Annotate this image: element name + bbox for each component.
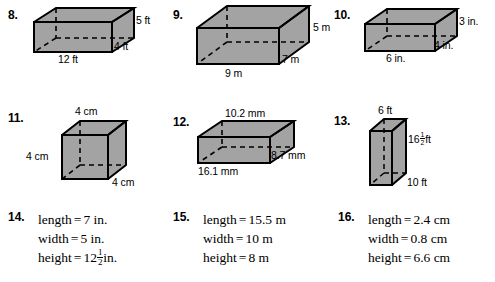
label-depth-12: 8.7 mm [271,150,305,161]
problem-14-lines: length=7 in. width=5 in. height=1212in. [38,210,168,267]
label-bottom-10: 6 in. [386,53,405,64]
problem-number-11: 11. [8,112,23,124]
problem-number-10: 10. [334,9,350,21]
height-line-15: height=8 m [203,248,333,267]
label-bottom-13: 10 ft [407,177,427,188]
height-line-16: height=6.6 cm [368,248,495,267]
label-height-10: 3 in. [459,16,478,27]
figure-rectangular-prism-10 [365,9,463,59]
label-height-13-whole: 16 [408,133,419,145]
length-value-15: 15.5 m [248,212,286,227]
problem-15: 15. length=15.5 m width=10 m height=8 m [173,210,333,267]
label-height-13: 1612ft [408,131,431,146]
height-value-16: 6.6 cm [413,250,450,265]
label-bottom-8: 12 ft [58,54,78,65]
problem-11: 11. 4 cm 4 cm 4 cm [0,95,165,205]
width-label-14: width [38,231,69,246]
label-depth-9: 7 m [282,54,299,65]
label-height-11: 4 cm [26,151,48,162]
label-height-13-unit: ft [425,133,431,145]
problem-16: 16. length=2.4 cm width=0.8 cm height=6.… [338,210,495,267]
equals-sign: = [72,250,84,265]
label-depth-10: 4 in. [434,40,453,51]
problem-number-12: 12. [173,116,189,128]
length-label-14: length [38,212,72,227]
problem-16-lines: length=2.4 cm width=0.8 cm height=6.6 cm [368,210,495,267]
fraction-one-half: 12 [97,248,102,267]
width-value-15: 10 m [245,231,272,246]
problem-number-13: 13. [334,115,350,127]
length-line-16: length=2.4 cm [368,210,495,229]
problem-15-lines: length=15.5 m width=10 m height=8 m [203,210,333,267]
equals-sign: = [234,231,246,246]
label-depth-11: 4 cm [112,177,134,188]
problem-number-9: 9. [173,9,183,21]
problem-12: 12. 10.2 mm 16.1 mm 8.7 mm [165,95,330,205]
height-label-14: height [38,250,72,265]
label-top-12: 10.2 mm [225,108,265,119]
length-value-14: 7 in. [83,212,107,227]
width-line-14: width=5 in. [38,229,168,248]
problem-8: 8. 12 ft 4 ft 5 ft [0,0,165,95]
label-height-9: 5 m [313,22,330,33]
problem-number-14: 14. [8,210,25,224]
problem-9: 9. 9 m 7 m 5 m [165,0,330,95]
height-value-14: 12 [83,250,97,265]
length-label-15: length [203,212,237,227]
width-label-15: width [203,231,234,246]
problem-13: 13. 6 ft 1612ft 10 ft [330,95,495,205]
height-line-14: height=1212in. [38,248,168,267]
label-depth-8: 4 ft [114,41,128,52]
label-bottom-12: 16.1 mm [198,166,238,177]
equals-sign: = [72,212,84,227]
height-value-15: 8 m [248,250,269,265]
height-unit-14: in. [103,250,117,265]
figure-rectangular-prism-8 [34,8,146,60]
equals-sign: = [402,212,414,227]
label-bottom-9: 9 m [225,68,242,79]
problem-10: 10. 6 in. 4 in. 3 in. [330,0,495,95]
equals-sign: = [237,250,249,265]
problem-number-16: 16. [338,210,355,224]
length-line-15: length=15.5 m [203,210,333,229]
equals-sign: = [69,231,81,246]
length-line-14: length=7 in. [38,210,168,229]
width-label-16: width [368,231,399,246]
equals-sign: = [399,231,411,246]
label-height-8: 5 ft [136,15,150,26]
length-label-16: length [368,212,402,227]
problem-number-8: 8. [8,9,18,21]
problem-14: 14. length=7 in. width=5 in. height=1212… [8,210,168,267]
equals-sign: = [402,250,414,265]
height-label-16: height [368,250,402,265]
equals-sign: = [237,212,249,227]
height-label-15: height [203,250,237,265]
label-top-13: 6 ft [378,105,392,116]
width-line-15: width=10 m [203,229,333,248]
length-value-16: 2.4 cm [413,212,450,227]
width-value-14: 5 in. [80,231,104,246]
width-value-16: 0.8 cm [410,231,447,246]
width-line-16: width=0.8 cm [368,229,495,248]
label-top-11: 4 cm [75,106,97,117]
problem-number-15: 15. [173,210,190,224]
